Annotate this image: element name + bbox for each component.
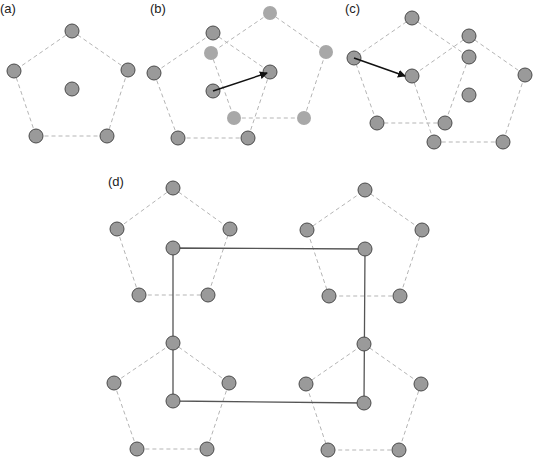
vertex-node <box>462 29 476 43</box>
vertex-node <box>166 336 180 350</box>
vertex-node <box>200 442 214 456</box>
vertex-node <box>147 66 161 80</box>
vertex-node <box>438 116 452 130</box>
panel-label-b: (b) <box>150 1 166 16</box>
vertex-node <box>322 289 336 303</box>
center-node <box>166 241 180 255</box>
vertex-node <box>204 46 218 60</box>
vertex-node <box>206 26 220 40</box>
vertex-node <box>223 222 237 236</box>
vertex-node <box>132 288 146 302</box>
vertex-node <box>7 64 21 78</box>
solid-lines-layer <box>173 248 365 403</box>
displacement-arrow <box>354 58 405 76</box>
vertex-node <box>300 223 314 237</box>
center-node <box>166 394 180 408</box>
panel-label-d: (d) <box>108 174 124 189</box>
vertex-node <box>130 442 144 456</box>
vertex-node <box>357 337 371 351</box>
vertex-node <box>263 6 277 20</box>
vertex-node <box>241 131 255 145</box>
vertex-node <box>65 24 79 38</box>
vertex-node <box>121 63 135 77</box>
panel-label-c: (c) <box>345 1 360 16</box>
vertex-node <box>29 129 43 143</box>
vertex-node <box>107 376 121 390</box>
vertex-node <box>415 223 429 237</box>
vertex-node <box>518 68 532 82</box>
vertex-node <box>405 69 419 83</box>
vertex-node <box>222 376 236 390</box>
panel-label-a: (a) <box>0 1 16 16</box>
center-node <box>357 396 371 410</box>
vertex-node <box>405 11 419 25</box>
vertex-node <box>392 443 406 457</box>
vertex-node <box>171 131 185 145</box>
center-node <box>462 88 476 102</box>
vertex-node <box>110 222 124 236</box>
center-node <box>358 242 372 256</box>
vertex-node <box>319 45 333 59</box>
vertex-node <box>299 377 313 391</box>
vertex-node <box>393 289 407 303</box>
vertex-node <box>166 181 180 195</box>
vertex-node <box>370 116 384 130</box>
nodes-layer <box>7 6 532 457</box>
vertex-node <box>358 183 372 197</box>
vertex-node <box>201 288 215 302</box>
vertex-node <box>100 129 114 143</box>
lattice-rectangle <box>173 248 365 403</box>
vertex-node <box>227 111 241 125</box>
vertex-node <box>496 135 510 149</box>
vertex-node <box>297 111 311 125</box>
panel-labels-layer: (a) (b) (c) (d) <box>0 1 360 189</box>
vertex-node <box>321 443 335 457</box>
vertex-node <box>414 377 428 391</box>
diagram-canvas: (a) (b) (c) (d) <box>0 0 537 460</box>
vertex-node <box>462 50 476 64</box>
vertex-node <box>263 65 277 79</box>
center-node <box>65 82 79 96</box>
vertex-node <box>427 135 441 149</box>
